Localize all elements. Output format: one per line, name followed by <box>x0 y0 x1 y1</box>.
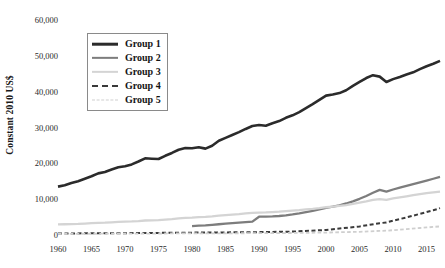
plot-area <box>0 0 445 268</box>
series-line-group-5 <box>58 226 440 233</box>
legend-item-label: Group 3 <box>125 66 161 78</box>
legend-line-swatch <box>92 53 118 63</box>
legend-line-swatch <box>92 81 118 91</box>
legend-line-swatch <box>92 95 118 105</box>
line-chart: Constant 2010 US$ 010,00020,00030,00040,… <box>0 0 445 268</box>
legend-item: Group 5 <box>92 93 161 107</box>
chart-legend: Group 1Group 2Group 3Group 4Group 5 <box>87 33 168 111</box>
legend-item-label: Group 4 <box>125 80 161 92</box>
legend-line-swatch <box>92 39 118 49</box>
legend-item: Group 4 <box>92 79 161 93</box>
legend-item-label: Group 1 <box>125 38 161 50</box>
legend-item: Group 1 <box>92 37 161 51</box>
series-line-group-3 <box>58 192 440 225</box>
legend-line-swatch <box>92 67 118 77</box>
legend-item-label: Group 2 <box>125 52 161 64</box>
legend-item: Group 2 <box>92 51 161 65</box>
legend-item: Group 3 <box>92 65 161 79</box>
legend-item-label: Group 5 <box>125 94 161 106</box>
